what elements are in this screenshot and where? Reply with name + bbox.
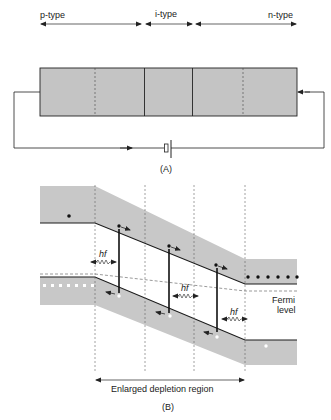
- n-type-label: n-type: [268, 10, 293, 20]
- photon-label-2: hf: [181, 283, 190, 293]
- hole-n-region: [264, 344, 267, 347]
- photon-label-1: hf: [99, 249, 108, 259]
- fermi-label-line2: level: [277, 305, 296, 315]
- caption-a: (A): [160, 164, 172, 174]
- photon-label-3: hf: [230, 307, 239, 317]
- photon-emission-1: hf: [91, 249, 116, 264]
- pin-diode-figure: p-type i-type n-type (A): [0, 0, 331, 420]
- p-type-label: p-type: [40, 10, 65, 20]
- caption-b: (B): [162, 402, 174, 412]
- region-arrows: p-type i-type n-type: [40, 9, 296, 24]
- photon-emission-3: hf: [222, 307, 247, 321]
- battery-negative-plate: [165, 144, 169, 152]
- i-type-label: i-type: [155, 9, 177, 19]
- depletion-label: Enlarged depletion region: [111, 384, 214, 394]
- fermi-label-line1: Fermi: [272, 295, 295, 305]
- pin-device-block: [40, 68, 297, 116]
- electron-p-region: [67, 214, 71, 218]
